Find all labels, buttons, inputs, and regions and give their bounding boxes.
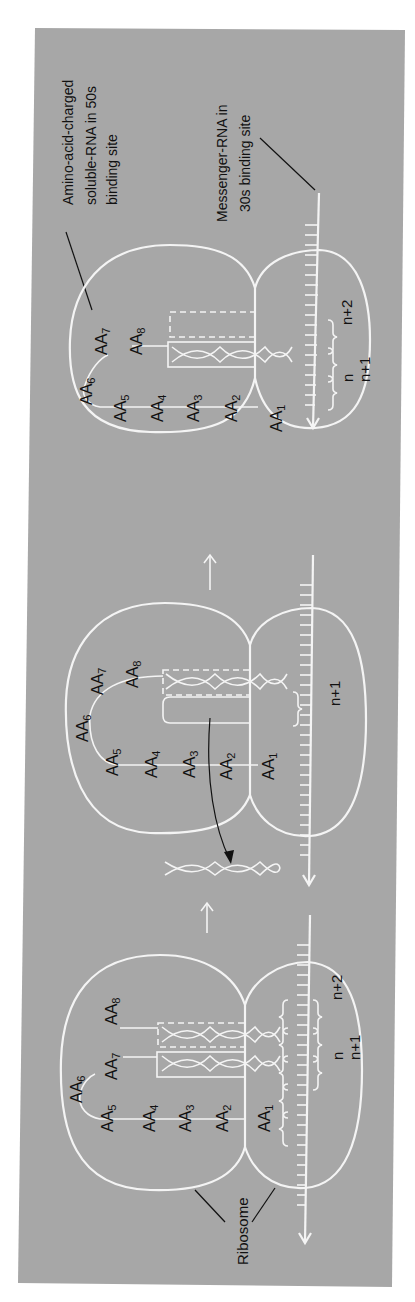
mrna-label-line1: Messenger-RNA in bbox=[214, 105, 230, 223]
codon-label-n: n bbox=[329, 1052, 346, 1060]
protein-synthesis-diagram: Amino-acid-charged soluble-RNA in 50s bi… bbox=[0, 0, 415, 1302]
trna-label-line1: Amino-acid-charged bbox=[60, 80, 76, 205]
codon-label-n2: n+2 bbox=[328, 975, 345, 1000]
ribosome-label: Ribosome bbox=[234, 1197, 251, 1265]
codon-label-n2: n+2 bbox=[338, 300, 355, 325]
codon-label-n1: n+1 bbox=[326, 681, 343, 706]
codon-label-n: n bbox=[339, 374, 356, 382]
codon-label-n1: n+1 bbox=[356, 357, 373, 382]
trna-label-line3: binding site bbox=[104, 134, 120, 205]
mrna-label-line2: 30s binding site bbox=[237, 114, 253, 212]
codon-label-n1: n+1 bbox=[346, 1035, 363, 1060]
trna-label-line2: soluble-RNA in 50s bbox=[83, 86, 99, 205]
